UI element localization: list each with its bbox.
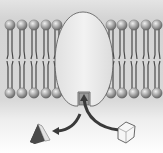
diagram-canvas bbox=[0, 0, 163, 153]
membrane-enzyme-diagram bbox=[0, 0, 163, 153]
membrane-protein bbox=[55, 12, 113, 106]
